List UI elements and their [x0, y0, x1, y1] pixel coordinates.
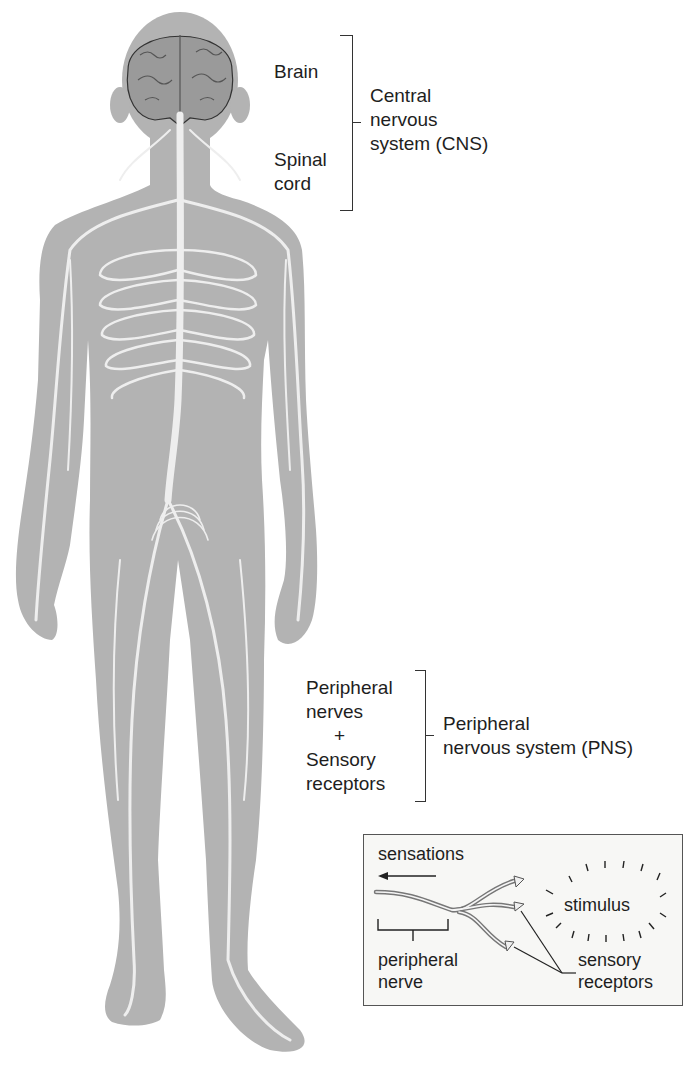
- cns-label-line3: system (CNS): [370, 132, 488, 156]
- peripheral-nerves-label-line1: Peripheral: [306, 676, 393, 700]
- peripheral-nerves-label-line2: nerves: [306, 700, 363, 724]
- peripheral-nerve-label-line1: peripheral: [378, 949, 458, 971]
- pns-bracket: [415, 670, 426, 802]
- sensory-receptors-inset-label-line2: receptors: [578, 971, 653, 993]
- sensory-receptors-inset-label-line1: sensory: [578, 949, 641, 971]
- sensory-pathway-inset: sensations: [363, 834, 683, 1006]
- body-silhouette: [16, 12, 317, 1052]
- receptor-ending-icon: [505, 876, 524, 951]
- sensory-receptors-label-line1: Sensory: [306, 748, 376, 772]
- pns-label-line1: Peripheral: [443, 712, 530, 736]
- spinal-cord-label-line2: cord: [274, 172, 311, 196]
- sensation-arrow-icon: [378, 872, 436, 880]
- brain-label: Brain: [274, 60, 318, 84]
- peripheral-nerve-label-line2: nerve: [378, 971, 423, 993]
- stimulus-label: stimulus: [564, 894, 630, 916]
- pns-bracket-tick: [426, 735, 434, 736]
- spinal-cord-label-line1: Spinal: [274, 148, 327, 172]
- cns-label-line2: nervous: [370, 108, 438, 132]
- nerve-bracket: [378, 919, 448, 941]
- sensory-receptors-label-line2: receptors: [306, 772, 385, 796]
- pns-label-line2: nervous system (PNS): [443, 736, 633, 760]
- cns-bracket-tick: [353, 122, 361, 123]
- cns-bracket: [340, 35, 353, 211]
- plus-sign: +: [334, 724, 345, 748]
- cns-label-line1: Central: [370, 84, 431, 108]
